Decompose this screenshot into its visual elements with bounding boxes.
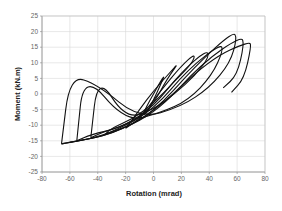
y-tick-label: -20 xyxy=(29,153,39,160)
x-tick-label: 60 xyxy=(234,175,242,182)
x-tick-label: 20 xyxy=(178,175,186,182)
y-tick-label: -5 xyxy=(32,106,38,113)
x-tick-label: 0 xyxy=(152,175,156,182)
x-tick-labels: -80-60-40-20020406080 xyxy=(37,175,269,182)
x-tick-label: 40 xyxy=(206,175,214,182)
y-tick-label: 0 xyxy=(34,90,38,97)
y-tick-label: -10 xyxy=(29,121,39,128)
y-tick-label: 20 xyxy=(31,28,39,35)
y-tick-label: 5 xyxy=(34,75,38,82)
x-tick-label: 80 xyxy=(261,175,269,182)
y-tick-label: -15 xyxy=(29,137,39,144)
y-tick-label: 25 xyxy=(31,12,39,19)
y-tick-labels: -25-20-15-10-50510152025 xyxy=(29,12,39,175)
y-axis-title: Moment (kN.m) xyxy=(13,66,22,121)
x-tick-label: -60 xyxy=(65,175,75,182)
x-axis-title: Rotation (mrad) xyxy=(126,189,182,198)
x-tick-label: -20 xyxy=(121,175,131,182)
x-tick-label: -40 xyxy=(93,175,103,182)
y-tick-label: 10 xyxy=(31,59,39,66)
x-tick-label: -80 xyxy=(37,175,47,182)
hysteresis-chart: -25-20-15-10-50510152025 -80-60-40-20020… xyxy=(0,0,282,211)
y-tick-label: 15 xyxy=(31,43,39,50)
